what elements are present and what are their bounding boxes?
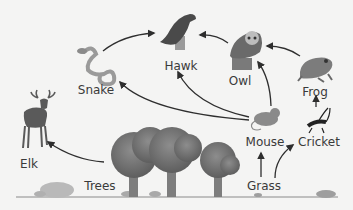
label-hawk: Hawk: [164, 60, 197, 72]
label-cricket: Cricket: [298, 136, 340, 148]
label-frog: Frog: [302, 86, 328, 98]
arrow-frog-to-owl: [267, 46, 300, 56]
owl-icon: [230, 31, 262, 70]
frog-icon: [298, 58, 332, 83]
mouse-icon: [251, 108, 280, 130]
label-elk: Elk: [20, 158, 38, 170]
label-trees: Trees: [84, 180, 115, 192]
arrow-mouse-to-owl: [258, 62, 271, 106]
rock-icon: [40, 182, 74, 198]
arrow-grass-to-cricket: [275, 145, 293, 178]
hawk-icon: [160, 14, 196, 50]
food-web-diagram: Snake Hawk Owl Frog Elk Mouse Cricket Tr…: [0, 0, 353, 210]
label-mouse: Mouse: [246, 136, 285, 148]
food-web-canvas: [0, 0, 353, 210]
arrow-snake-to-hawk: [103, 33, 154, 51]
label-snake: Snake: [78, 84, 114, 96]
elk-icon: [23, 90, 55, 148]
cricket-icon: [308, 108, 330, 133]
grass-tuft-icon: [254, 193, 262, 197]
label-grass: Grass: [247, 180, 281, 192]
grass-tuft-icon: [316, 190, 336, 198]
arrow-trees-to-elk: [48, 142, 104, 162]
rock-icon: [149, 191, 161, 197]
ground: [16, 182, 338, 198]
snake-icon: [77, 48, 114, 84]
rock-icon: [34, 191, 46, 197]
arrow-owl-to-hawk: [200, 35, 228, 43]
trees-icon: [111, 127, 240, 197]
label-owl: Owl: [229, 75, 252, 87]
